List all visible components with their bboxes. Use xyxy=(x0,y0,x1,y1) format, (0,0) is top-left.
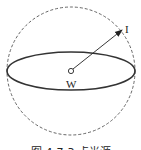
intensity-label: I xyxy=(125,23,129,35)
center-label: W xyxy=(66,78,77,90)
figure-caption: 图 4-7-3 点光源 xyxy=(31,145,111,150)
point-light-source-diagram: I W 图 4-7-3 点光源 xyxy=(0,0,141,150)
center-point-icon xyxy=(68,68,73,73)
intensity-arrow xyxy=(73,30,122,69)
